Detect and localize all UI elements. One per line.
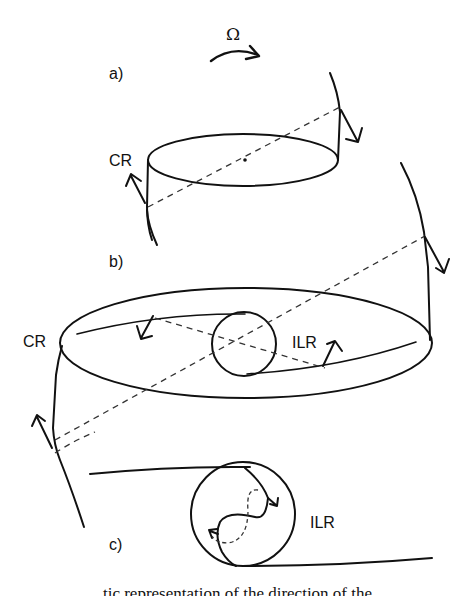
spiral-arm-right-a: [330, 73, 340, 160]
corotation-ring-b: [60, 288, 432, 398]
outer-arm-right: [401, 163, 430, 340]
bar-axis-c: [55, 432, 95, 453]
panel-c: c) ILR: [55, 432, 432, 566]
galaxy-resonance-diagram: Ω a) CR b): [0, 0, 475, 596]
panel-a-label: a): [109, 65, 123, 82]
spiral-arm-left-b: [53, 346, 84, 527]
panel-b: b) CR ILR: [23, 236, 449, 527]
corotation-ring-a: [148, 134, 338, 186]
velocity-arrow-icon: [137, 316, 153, 339]
panel-a: a) CR: [109, 65, 430, 340]
velocity-arrow-icon: [32, 415, 52, 448]
center-dot: [243, 158, 247, 162]
figure-caption: tic representation of the direction of t…: [0, 580, 475, 596]
omega-label: Ω: [226, 24, 240, 44]
cr-label-b: CR: [23, 333, 46, 350]
cr-label-a: CR: [109, 152, 132, 169]
velocity-arrow-icon: [341, 110, 362, 142]
velocity-arrow-icon: [126, 174, 145, 203]
rotation-indicator: Ω: [211, 24, 259, 61]
s-curve-arrow-icon: [268, 498, 278, 506]
bar-axis-a: [148, 107, 340, 207]
rotation-arrow-icon: [211, 51, 258, 61]
s-curve-c: [217, 468, 268, 566]
panel-c-label: c): [109, 536, 122, 553]
ilr-label-c: ILR: [310, 514, 335, 531]
arm-top-c: [90, 467, 250, 474]
arm-bottom-c: [243, 558, 432, 566]
panel-b-label: b): [109, 253, 123, 270]
ilr-label-b: ILR: [292, 334, 317, 351]
